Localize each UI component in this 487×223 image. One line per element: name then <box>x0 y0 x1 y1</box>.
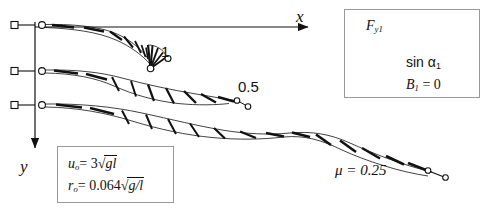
traj2-vehicle-ticks <box>54 71 234 104</box>
traj1-envelope-lower <box>45 28 154 71</box>
inset-x-axis-label: sin α1 <box>406 55 441 71</box>
traj3-end-node-a <box>425 168 431 174</box>
inset-x-subscript: 1 <box>436 61 441 71</box>
start-circle-middle <box>39 68 46 75</box>
x-axis-label: x <box>296 8 304 25</box>
inset-y-symbol: F <box>366 18 375 33</box>
trajectory-label-1: 1 <box>161 44 169 59</box>
inset-note-value: = 0 <box>422 77 440 92</box>
trajectory-series-1 <box>45 24 171 71</box>
param-u-coefficient: 3 <box>91 156 98 171</box>
param-r-equals: = <box>78 178 86 193</box>
start-square-top <box>11 22 18 29</box>
axis-group <box>35 22 308 148</box>
parameter-line-r0: ro= 0.064√g/l <box>68 178 144 194</box>
inset-x-symbol: sin α <box>406 54 436 70</box>
param-u-symbol: u <box>68 156 75 171</box>
start-square-bottom <box>11 102 18 109</box>
param-r-coefficient: 0.064 <box>89 178 121 193</box>
inset-note-subscript: 1 <box>415 83 419 93</box>
traj3-hitch <box>430 172 444 178</box>
start-circle-bottom <box>39 102 46 109</box>
trajectory-label-05: 0.5 <box>238 79 259 94</box>
start-markers-group <box>11 22 45 109</box>
inset-y-subscript: y1 <box>375 24 383 34</box>
y-axis-label: y <box>20 158 28 175</box>
inset-box: Fy1 sin α1 B1 = 0 <box>344 9 480 98</box>
traj2-end-node-a <box>234 98 240 104</box>
parameter-line-u0: uo= 3√gl <box>68 156 117 172</box>
inset-note-symbol: B <box>406 77 415 92</box>
traj2-end-node-b <box>245 104 251 110</box>
trajectory-series-05 <box>45 70 251 109</box>
traj2-envelope-lower <box>45 73 229 105</box>
traj3-end-node-b <box>443 175 449 181</box>
inset-note: B1 = 0 <box>406 78 441 93</box>
param-r-radicand: g/l <box>127 177 144 193</box>
inset-y-axis-label: Fy1 <box>366 19 383 34</box>
start-circle-top <box>39 22 46 29</box>
trajectory-label-mu: μ = 0.25 <box>335 163 386 178</box>
param-u-equals: = <box>79 156 87 171</box>
parameter-box: uo= 3√gl ro= 0.064√g/l <box>57 146 174 203</box>
traj1-vehicle-ticks <box>52 25 148 59</box>
figure-root: x y 1 0.5 μ = 0.25 uo= 3√gl ro= 0.064√g/… <box>0 0 487 223</box>
param-u-radicand: gl <box>104 155 117 171</box>
start-square-middle <box>11 68 18 75</box>
traj1-end-node-pivot <box>147 65 153 71</box>
